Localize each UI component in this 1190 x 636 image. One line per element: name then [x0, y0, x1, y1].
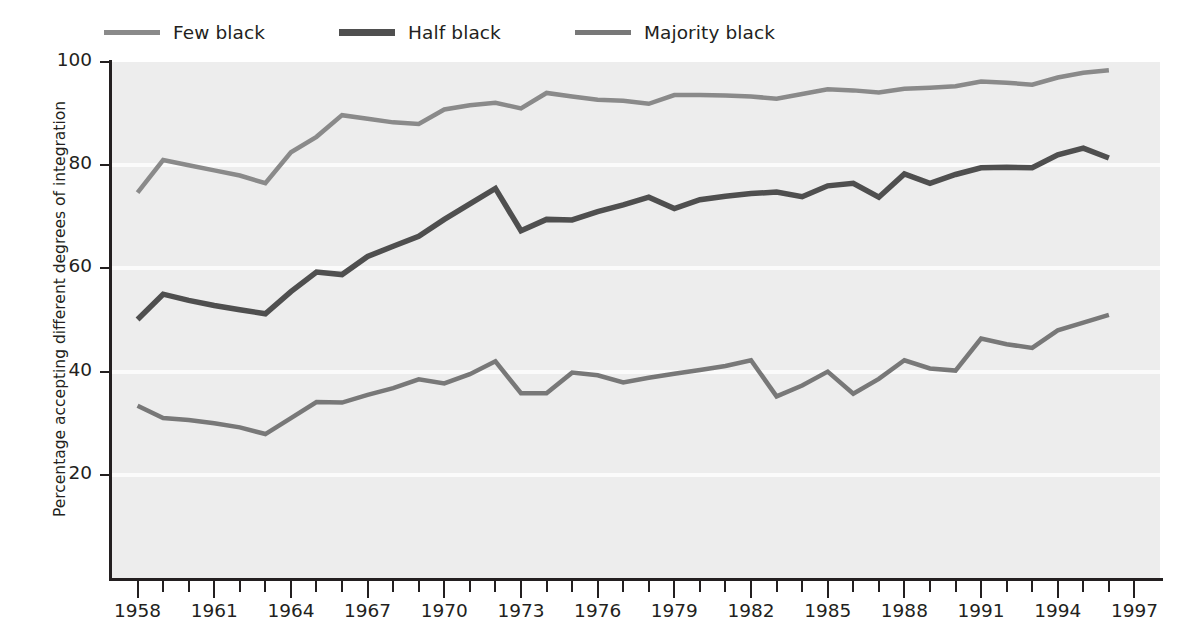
x-tick-1986 — [852, 581, 854, 592]
x-tick-label-1997: 1997 — [1111, 600, 1158, 621]
x-tick-1989 — [929, 581, 931, 592]
x-tick-label-1973: 1973 — [497, 600, 544, 621]
series-lines — [112, 62, 1160, 578]
x-tick-label-1964: 1964 — [267, 600, 314, 621]
x-tick-1970 — [443, 581, 445, 598]
y-tick-40 — [100, 371, 110, 373]
x-tick-1974 — [546, 581, 548, 592]
x-tick-1987 — [878, 581, 880, 592]
x-tick-1975 — [571, 581, 573, 592]
series-line-half-black — [138, 148, 1109, 319]
x-tick-label-1982: 1982 — [727, 600, 774, 621]
x-tick-label-1985: 1985 — [804, 600, 851, 621]
series-line-majority-black — [138, 315, 1109, 434]
x-tick-1997 — [1133, 581, 1135, 598]
legend-label-half-black: Half black — [408, 22, 501, 43]
y-tick-60 — [100, 267, 110, 269]
x-tick-label-1988: 1988 — [881, 600, 928, 621]
x-tick-1962 — [239, 581, 241, 592]
legend-swatch-half-black — [339, 29, 395, 36]
x-tick-1996 — [1108, 581, 1110, 592]
x-tick-1966 — [341, 581, 343, 592]
x-tick-1990 — [955, 581, 957, 592]
x-tick-1983 — [776, 581, 778, 592]
x-tick-1992 — [1006, 581, 1008, 592]
x-tick-1959 — [162, 581, 164, 592]
legend-item-few-black[interactable]: Few black — [104, 22, 265, 43]
x-tick-1965 — [315, 581, 317, 592]
x-tick-1982 — [750, 581, 752, 598]
x-tick-1973 — [520, 581, 522, 598]
x-tick-1961 — [213, 581, 215, 598]
x-tick-label-1967: 1967 — [344, 600, 391, 621]
x-tick-label-1991: 1991 — [958, 600, 1005, 621]
legend-label-majority-black: Majority black — [644, 22, 775, 43]
x-tick-1988 — [903, 581, 905, 598]
x-tick-1984 — [801, 581, 803, 592]
x-tick-1995 — [1082, 581, 1084, 592]
y-tick-label-20: 20 — [30, 462, 92, 483]
x-tick-label-1976: 1976 — [574, 600, 621, 621]
legend-swatch-few-black — [104, 30, 160, 35]
x-tick-1968 — [392, 581, 394, 592]
x-tick-1972 — [494, 581, 496, 592]
y-tick-20 — [100, 474, 110, 476]
x-tick-1981 — [724, 581, 726, 592]
y-tick-label-100: 100 — [30, 49, 92, 70]
x-tick-label-1970: 1970 — [421, 600, 468, 621]
x-tick-1960 — [188, 581, 190, 592]
legend-item-half-black[interactable]: Half black — [339, 22, 501, 43]
x-tick-label-1979: 1979 — [651, 600, 698, 621]
x-tick-1964 — [290, 581, 292, 598]
x-tick-1991 — [980, 581, 982, 598]
legend-label-few-black: Few black — [173, 22, 265, 43]
x-tick-1977 — [622, 581, 624, 592]
y-tick-label-40: 40 — [30, 359, 92, 380]
y-tick-label-60: 60 — [30, 255, 92, 276]
x-tick-label-1994: 1994 — [1034, 600, 1081, 621]
x-tick-1967 — [367, 581, 369, 598]
x-tick-1993 — [1031, 581, 1033, 592]
x-tick-1985 — [827, 581, 829, 598]
y-axis-title: Percentage accepting different degrees o… — [51, 49, 69, 569]
y-axis-line — [109, 60, 112, 580]
x-tick-label-1958: 1958 — [114, 600, 161, 621]
x-tick-1978 — [648, 581, 650, 592]
x-tick-1980 — [699, 581, 701, 592]
chart-legend: Few black Half black Majority black — [104, 14, 775, 50]
x-tick-1994 — [1057, 581, 1059, 598]
legend-item-majority-black[interactable]: Majority black — [575, 22, 775, 43]
y-tick-100 — [100, 61, 110, 63]
x-tick-1976 — [597, 581, 599, 598]
legend-swatch-majority-black — [575, 30, 631, 35]
y-tick-label-80: 80 — [30, 152, 92, 173]
x-tick-1971 — [469, 581, 471, 592]
chart-figure: Few black Half black Majority black Perc… — [0, 0, 1190, 636]
y-tick-80 — [100, 164, 110, 166]
x-tick-1979 — [673, 581, 675, 598]
x-tick-1969 — [418, 581, 420, 592]
x-tick-1958 — [137, 581, 139, 598]
x-tick-label-1961: 1961 — [191, 600, 238, 621]
x-tick-1963 — [264, 581, 266, 592]
plot-area — [112, 62, 1160, 578]
